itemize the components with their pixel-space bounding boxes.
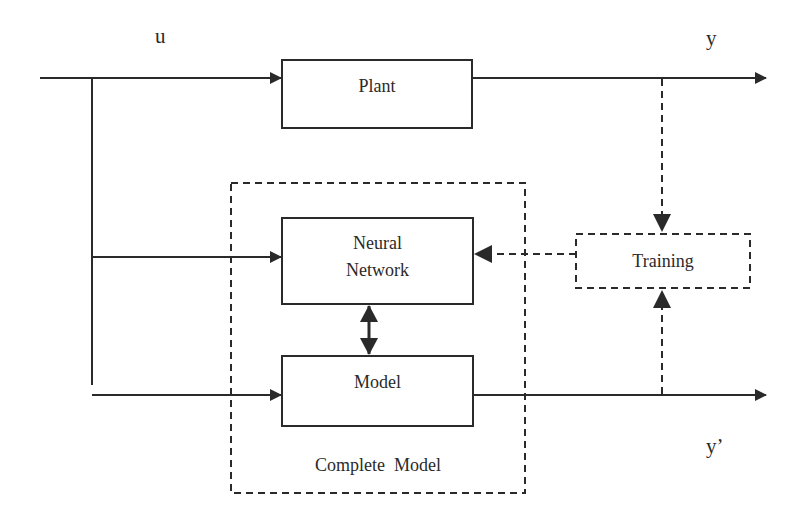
plant-label: Plant: [282, 75, 472, 98]
model-output-label: y’: [706, 436, 724, 457]
arrowhead-down-icon: [653, 214, 671, 232]
training-label: Training: [576, 250, 750, 273]
arrowhead-down-icon: [360, 338, 378, 355]
plant-output-label: y: [706, 28, 717, 49]
model-label: Model: [282, 371, 473, 394]
arrowhead-left-icon: [474, 245, 492, 263]
input-signal-label: u: [155, 26, 166, 47]
complete-model-label: Complete Model: [231, 454, 525, 477]
neural-network-label-line2: Network: [282, 259, 473, 282]
arrowhead-up-icon: [653, 290, 671, 308]
neural-network-label-line1: Neural: [282, 232, 473, 255]
arrowhead-up-icon: [360, 305, 378, 322]
